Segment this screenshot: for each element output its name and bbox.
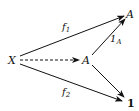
label-f1: f1 xyxy=(61,21,70,34)
arrow-f2 xyxy=(20,64,122,101)
node-x: X xyxy=(7,54,17,67)
node-a-middle: A xyxy=(81,54,90,67)
node-a-top: A xyxy=(125,8,134,21)
commutative-diagram: X A A 1 f1 1A f2 xyxy=(0,0,139,111)
arrow-f1 xyxy=(20,16,124,56)
node-one: 1 xyxy=(127,97,135,110)
arrow-identity-a xyxy=(92,19,125,55)
label-identity-a: 1A xyxy=(110,33,121,46)
label-f2: f2 xyxy=(61,86,71,99)
